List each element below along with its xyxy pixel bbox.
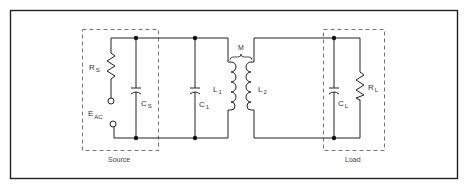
junction-dot [134,136,138,140]
eac-terminal-bottom [110,121,116,127]
cl-label: CL [338,99,349,109]
c1-label: C1 [199,100,210,110]
source-caption: Source [108,156,130,163]
rl-label: RL [368,83,379,93]
l1-inductor [228,62,236,110]
junction-dot [193,36,197,40]
source-box [83,30,159,151]
junction-dot [332,136,336,140]
l2-inductor [246,62,254,110]
secondary-top-wire [254,38,360,72]
junction-dot [193,136,197,140]
l2-label: L2 [258,85,267,95]
rs-resistor [107,53,115,79]
rl-resistor [356,72,364,100]
cs-label: CS [141,99,152,109]
outer-frame [11,11,458,179]
load-caption: Load [345,156,361,163]
circuit-diagram: Source Load [0,0,465,186]
junction-dot [134,36,138,40]
m-bracket [230,54,252,60]
junction-dot [332,36,336,40]
m-label: M [238,44,244,51]
eac-label: EAC [88,109,103,120]
primary-bottom-wire [114,110,228,138]
primary-top-wire [111,38,228,62]
eac-terminal-top [108,98,114,104]
rs-label: RS [89,63,100,73]
l1-label: L1 [213,85,222,95]
